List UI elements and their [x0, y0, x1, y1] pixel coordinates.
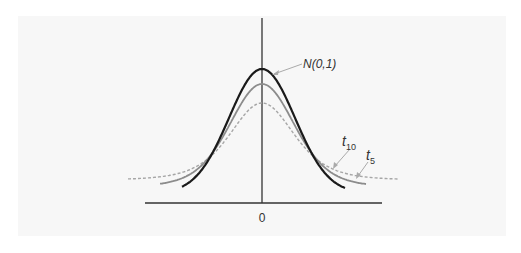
x-tick-zero: 0: [259, 211, 266, 225]
t10-leader-arrow: [333, 149, 350, 169]
normal-leader-arrow: [272, 64, 302, 75]
normal-curve: [182, 69, 345, 188]
t5-curve: [128, 103, 398, 179]
distribution-chart: N(0,1) t10 t5 0: [0, 0, 521, 253]
t10-curve: [160, 84, 366, 184]
t10-label: t10: [342, 133, 356, 152]
normal-label: N(0,1): [303, 57, 336, 71]
